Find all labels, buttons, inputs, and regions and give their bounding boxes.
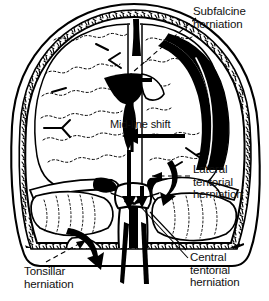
herniation-diagram-page: Subfalcine herniation Mid-line shift Lat… (0, 0, 269, 301)
label-tonsillar-herniation: Tonsillar herniation (24, 265, 74, 290)
label-central-tentorial-herniation: Central tentorial herniation (190, 251, 240, 289)
label-subfalcine-herniation: Subfalcine herniation (193, 5, 246, 30)
label-lateral-tentorial-herniation: Lateral tentorial herniation (193, 163, 243, 201)
label-midline-shift: Mid-line shift (110, 118, 170, 131)
leader-subfalcine-dot (124, 76, 128, 80)
